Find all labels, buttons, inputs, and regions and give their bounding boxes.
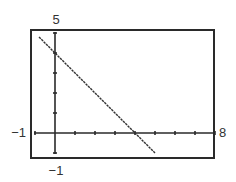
ymax-label: 5 <box>52 12 59 27</box>
y-axis <box>53 32 57 154</box>
x-axis <box>34 131 215 135</box>
graph-window: 5 −1 −1 8 <box>0 0 236 182</box>
xmin-label: −1 <box>11 125 26 140</box>
xmax-label: 8 <box>219 125 226 140</box>
window-frame <box>31 30 214 158</box>
ymin-label: −1 <box>49 163 64 178</box>
line-y-equals-neg-x-plus-4 <box>39 37 155 153</box>
